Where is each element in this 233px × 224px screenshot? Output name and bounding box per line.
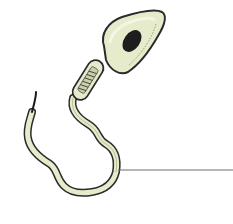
midpiece (70, 57, 107, 103)
head (103, 10, 165, 73)
tail (27, 92, 116, 193)
sperm-cell-diagram (0, 0, 233, 224)
